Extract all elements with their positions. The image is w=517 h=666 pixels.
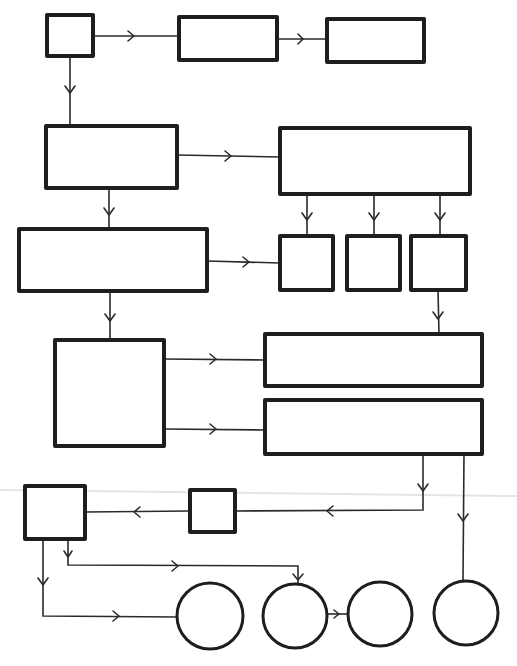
node-n18 xyxy=(434,581,498,645)
edge-n9-n11 xyxy=(433,290,443,334)
node-n10 xyxy=(55,340,164,446)
node-n5 xyxy=(280,128,470,194)
edge-n4-n6 xyxy=(104,188,114,229)
edge-n5-n7 xyxy=(302,194,312,236)
node-n12 xyxy=(265,400,482,454)
node-n13 xyxy=(25,486,85,539)
node-n15 xyxy=(177,583,243,649)
node-n14 xyxy=(190,490,235,532)
edge-n6-n7 xyxy=(207,257,280,267)
node-n6 xyxy=(19,229,207,291)
edge-n14-n13 xyxy=(85,507,190,517)
node-n8 xyxy=(347,236,400,290)
edge-n16-n17 xyxy=(327,610,348,618)
edge-n5-n9 xyxy=(435,194,445,236)
edge-n6-n10 xyxy=(105,291,115,340)
node-n16 xyxy=(263,584,327,648)
node-n17 xyxy=(348,582,412,646)
edge-n13-n15 xyxy=(38,539,177,621)
edge-n13-n16 xyxy=(64,539,303,584)
edges xyxy=(38,31,468,621)
node-n3 xyxy=(327,19,424,62)
edge-n12-n14 xyxy=(235,454,428,516)
edge-n10-n11 xyxy=(164,354,265,364)
edge-n2-n3 xyxy=(277,34,327,44)
node-n2 xyxy=(179,17,277,60)
flowchart-diagram xyxy=(0,0,517,666)
edge-n12-n18 xyxy=(458,454,468,581)
node-n4 xyxy=(46,126,177,188)
edge-n1-n4 xyxy=(65,56,75,126)
edge-n5-n8 xyxy=(369,194,379,236)
edge-n1-n2 xyxy=(93,31,179,41)
node-n9 xyxy=(411,236,466,290)
edge-n10-n12 xyxy=(164,424,265,434)
nodes xyxy=(19,15,498,649)
node-n11 xyxy=(265,334,482,386)
node-n7 xyxy=(280,236,333,290)
node-n1 xyxy=(47,15,93,56)
edge-n4-n5 xyxy=(177,151,280,161)
